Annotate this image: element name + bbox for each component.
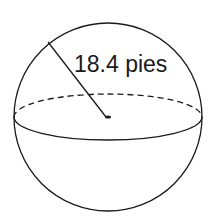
equator-back-dashed: [14, 94, 202, 117]
equator-front: [14, 117, 202, 140]
center-point: [105, 116, 111, 119]
radius-label: 18.4 pies: [74, 51, 167, 77]
sphere-diagram: 18.4 pies: [0, 0, 212, 222]
